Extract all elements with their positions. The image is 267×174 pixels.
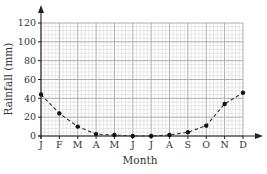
x-tick-label: S (185, 139, 192, 150)
data-point-marker (39, 92, 43, 96)
x-tick-label: O (202, 139, 210, 150)
data-point-marker (186, 130, 190, 134)
y-axis-title: Rainfall (mm) (2, 43, 14, 116)
y-tick-label: 80 (24, 55, 36, 66)
data-point-marker (76, 124, 80, 128)
x-axis-title: Month (123, 154, 158, 166)
data-point-marker (167, 133, 171, 137)
x-tick-label: A (92, 139, 100, 150)
y-tick-label: 40 (24, 93, 36, 104)
x-tick-label: J (148, 139, 153, 150)
chart-grid (41, 23, 243, 136)
y-tick-label: 60 (24, 74, 36, 85)
x-axis-ticks: JFMAMJJASOND (38, 136, 247, 150)
y-tick-label: 120 (18, 17, 36, 28)
y-tick-label: 100 (18, 36, 36, 47)
data-point-marker (241, 90, 245, 94)
x-tick-label: D (239, 139, 247, 150)
y-tick-label: 20 (24, 111, 36, 122)
data-point-marker (94, 132, 98, 136)
x-tick-label: F (56, 139, 63, 150)
data-point-marker (149, 134, 153, 138)
x-tick-label: N (220, 139, 228, 150)
rainfall-chart: 020406080100120 JFMAMJJASOND Month Rainf… (0, 0, 267, 174)
x-tick-label: J (130, 139, 135, 150)
data-point-marker (131, 134, 135, 138)
x-tick-label: M (73, 139, 83, 150)
rainfall-series (39, 90, 245, 138)
x-tick-label: J (38, 139, 43, 150)
y-axis-ticks: 020406080100120 (18, 17, 41, 141)
data-point-marker (112, 133, 116, 137)
y-tick-label: 0 (30, 130, 36, 141)
x-tick-label: M (110, 139, 120, 150)
data-point-marker (222, 102, 226, 106)
data-point-marker (57, 111, 61, 115)
data-point-marker (204, 123, 208, 127)
x-tick-label: A (165, 139, 173, 150)
